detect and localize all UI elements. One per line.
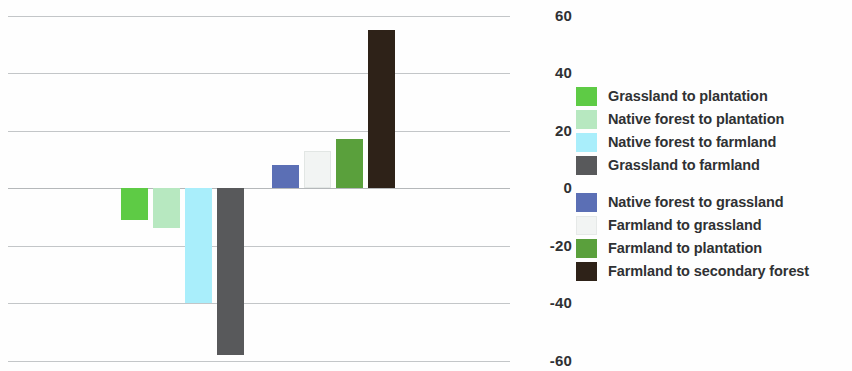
- plot-area: [8, 0, 510, 371]
- bar-native-forest-to-plantation: [153, 188, 180, 228]
- legend: Grassland to plantationNative forest to …: [576, 86, 848, 284]
- y-axis-tick-0: 0: [516, 180, 572, 195]
- bar-native-forest-to-grassland: [272, 165, 299, 188]
- legend-item: Farmland to secondary forest: [576, 261, 848, 282]
- legend-item: Farmland to grassland: [576, 215, 848, 236]
- legend-item-label: Native forest to farmland: [608, 135, 776, 150]
- y-axis-tick--40: -40: [516, 295, 572, 310]
- legend-item: Native forest to grassland: [576, 192, 848, 213]
- legend-item-label: Native forest to plantation: [608, 112, 784, 127]
- bar-native-forest-to-farmland: [185, 188, 212, 303]
- legend-item-label: Farmland to plantation: [608, 241, 762, 256]
- legend-swatch-icon: [576, 193, 597, 212]
- legend-swatch-icon: [576, 110, 597, 129]
- legend-item: Grassland to farmland: [576, 155, 848, 176]
- y-axis-tick-40: 40: [516, 65, 572, 80]
- bar-farmland-to-secondary-forest: [368, 30, 395, 188]
- legend-item: Native forest to farmland: [576, 132, 848, 153]
- legend-swatch-icon: [576, 239, 597, 258]
- legend-swatch-icon: [576, 133, 597, 152]
- legend-group-2: Native forest to grasslandFarmland to gr…: [576, 192, 848, 282]
- bar-farmland-to-plantation: [336, 139, 363, 188]
- legend-group-1: Grassland to plantationNative forest to …: [576, 86, 848, 176]
- y-axis-tick--60: -60: [516, 353, 572, 368]
- legend-swatch-icon: [576, 216, 597, 235]
- legend-item-label: Farmland to grassland: [608, 218, 761, 233]
- y-axis-tick--20: -20: [516, 238, 572, 253]
- legend-swatch-icon: [576, 156, 597, 175]
- legend-item-label: Native forest to grassland: [608, 195, 783, 210]
- bar-farmland-to-grassland: [304, 151, 331, 188]
- bar-series: [8, 0, 510, 371]
- legend-item: Farmland to plantation: [576, 238, 848, 259]
- legend-item-label: Grassland to farmland: [608, 158, 760, 173]
- bar-chart-figure: 6040200-20-40-60 Grassland to plantation…: [0, 0, 852, 371]
- bar-grassland-to-farmland: [217, 188, 244, 355]
- y-axis-tick-60: 60: [516, 8, 572, 23]
- y-axis-tick-20: 20: [516, 123, 572, 138]
- legend-swatch-icon: [576, 87, 597, 106]
- legend-item: Native forest to plantation: [576, 109, 848, 130]
- legend-swatch-icon: [576, 262, 597, 281]
- legend-item: Grassland to plantation: [576, 86, 848, 107]
- y-axis: 6040200-20-40-60: [516, 0, 572, 371]
- legend-item-label: Grassland to plantation: [608, 89, 768, 104]
- legend-item-label: Farmland to secondary forest: [608, 264, 809, 279]
- bar-grassland-to-plantation: [121, 188, 148, 220]
